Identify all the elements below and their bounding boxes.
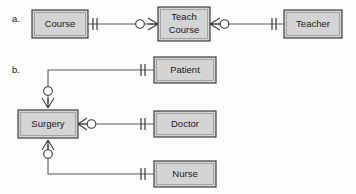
relationship-course-teachcourse [88,18,158,30]
erd-svg-root: a. [0,0,356,194]
crowsfoot-surgery-right [78,118,87,130]
optional-circle-surgery-right [87,120,96,129]
crowsfoot-surgery-bottom [42,140,54,150]
optional-circle-teachcourse-left [136,20,145,29]
entity-teacher[interactable]: Teacher [284,10,342,38]
connector-line-surgery-nurse [48,144,154,174]
connector-line-surgery-patient [48,70,154,104]
section-b-label: b. [12,64,20,75]
entity-teach-course-label-line2: Course [169,24,200,35]
optional-circle-teachcourse-right [220,20,229,29]
entity-patient[interactable]: Patient [154,57,216,83]
crowsfoot-teachcourse-right [210,18,220,30]
entity-teach-course-label-line1: Teach [171,11,196,22]
relationship-surgery-patient [42,64,154,108]
relationship-teachcourse-teacher [210,18,284,30]
section-b: b. [12,57,216,187]
erd-diagram-canvas: a. [0,0,356,194]
entity-nurse[interactable]: Nurse [154,161,216,187]
entity-course[interactable]: Course [32,10,88,38]
entity-nurse-label: Nurse [172,168,197,179]
crowsfoot-teachcourse-left [148,18,158,30]
entity-patient-label: Patient [170,64,200,75]
crowsfoot-surgery-top [42,98,54,108]
section-a: a. [12,7,342,41]
entity-surgery-label: Surgery [31,118,65,129]
relationship-surgery-doctor [78,118,154,130]
entity-teach-course[interactable]: Teach Course [158,7,210,41]
optional-circle-surgery-top [44,87,53,96]
optional-circle-surgery-bottom [44,150,53,159]
entity-doctor-label: Doctor [171,118,199,129]
entity-course-label: Course [45,18,76,29]
entity-teacher-label: Teacher [296,18,330,29]
relationship-surgery-nurse [42,140,154,180]
section-a-label: a. [12,13,20,24]
entity-doctor[interactable]: Doctor [154,111,216,137]
entity-surgery[interactable]: Surgery [18,110,78,138]
